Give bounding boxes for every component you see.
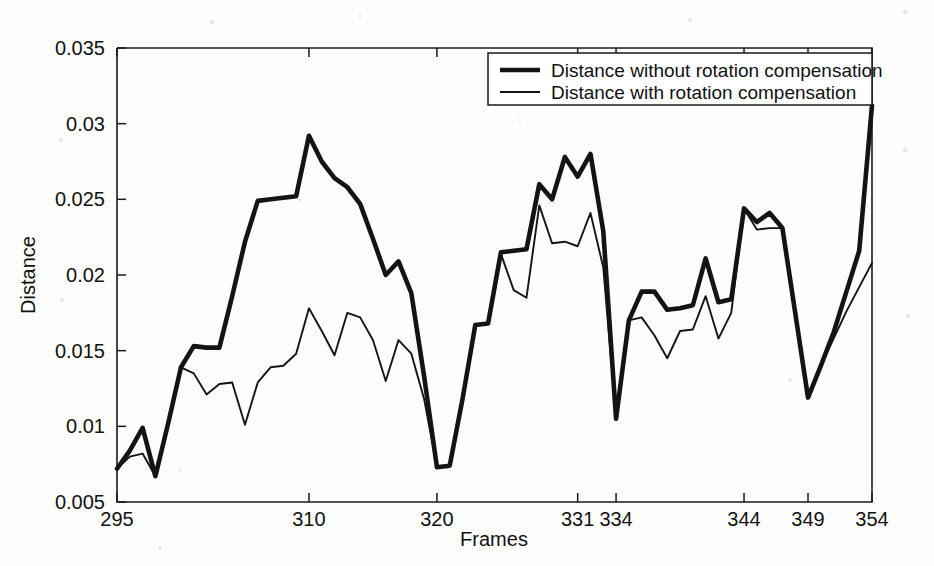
x-tick-label: 349 xyxy=(791,508,824,530)
x-tick-label: 331 xyxy=(561,508,594,530)
x-tick-label: 320 xyxy=(420,508,453,530)
x-tick-label: 344 xyxy=(727,508,760,530)
y-tick-label: 0.03 xyxy=(66,113,105,135)
y-tick-label: 0.005 xyxy=(55,491,105,513)
x-axis-title: Frames xyxy=(460,528,528,550)
y-tick-label: 0.035 xyxy=(55,37,105,59)
y-tick-label: 0.01 xyxy=(66,415,105,437)
figure-canvas: 0.0050.010.0150.020.0250.030.035 2953103… xyxy=(0,0,934,566)
legend: Distance without rotation compensation D… xyxy=(488,53,883,105)
x-tick-label: 354 xyxy=(855,508,888,530)
y-tick-label: 0.015 xyxy=(55,340,105,362)
legend-label-without-compensation: Distance without rotation compensation xyxy=(551,60,883,81)
x-tick-label: 310 xyxy=(292,508,325,530)
legend-label-with-compensation: Distance with rotation compensation xyxy=(551,82,856,103)
distance-line-chart: 0.0050.010.0150.020.0250.030.035 2953103… xyxy=(0,0,934,566)
y-tick-label: 0.02 xyxy=(66,264,105,286)
x-tick-label: 295 xyxy=(100,508,133,530)
y-axis-title: Distance xyxy=(17,236,39,314)
y-tick-label: 0.025 xyxy=(55,188,105,210)
x-tick-label: 334 xyxy=(599,508,632,530)
